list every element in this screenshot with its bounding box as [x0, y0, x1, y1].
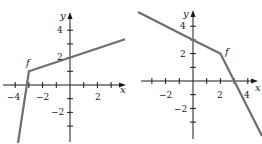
left-y-tick-label-2: 2: [57, 52, 63, 62]
graphs-canvas: y x f −4 −2 2 4 2 −2: [0, 0, 262, 144]
right-f-label: f: [224, 46, 231, 57]
left-y-arrow-icon: [68, 12, 73, 19]
right-x-tick-label-m2: −2: [159, 90, 172, 100]
right-y-tick-label-2: 2: [180, 49, 186, 59]
left-y-tick-label-m2: −2: [51, 107, 64, 117]
left-x-tick-label-m4: −4: [7, 92, 21, 102]
right-x-axis-label: x: [255, 82, 261, 93]
left-y-tick-label-4: 4: [57, 25, 63, 35]
left-function-f-curve: [18, 39, 125, 143]
right-function-f-curve: [138, 12, 262, 136]
right-y-tick-label-m2: −2: [174, 104, 187, 114]
left-x-tick-label-m2: −2: [36, 92, 49, 102]
right-x-tick-label-4: 4: [244, 90, 250, 100]
left-x-tick-label-2: 2: [95, 92, 101, 102]
right-graph: y x f −2 2 4 4 2 −2: [138, 8, 262, 139]
left-graph: y x f −4 −2 2 4 2 −2: [3, 10, 126, 143]
right-x-tick-label-2: 2: [217, 90, 223, 100]
left-y-axis-label: y: [59, 10, 66, 21]
right-y-tick-label-4: 4: [180, 21, 186, 31]
right-y-axis-label: y: [182, 8, 189, 19]
left-x-axis-label: x: [120, 84, 126, 95]
left-f-label: f: [25, 57, 32, 68]
right-y-arrow-icon: [191, 10, 196, 17]
